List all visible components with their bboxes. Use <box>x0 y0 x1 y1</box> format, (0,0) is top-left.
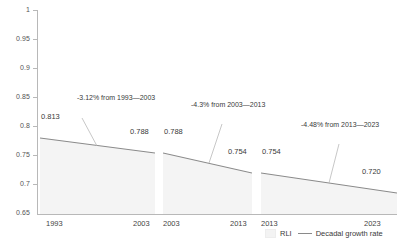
y-tick-mark <box>33 10 37 11</box>
legend-item-rli[interactable]: RLI <box>265 229 292 238</box>
leader-line-3 <box>329 144 339 183</box>
x-tick-label-2023: 2023 <box>364 219 381 228</box>
value-label-end-3: 0.720 <box>362 167 381 176</box>
y-tick-mark <box>33 68 37 69</box>
y-tick-mark <box>33 155 37 156</box>
legend-label-decadal-growth-rate: Decadal growth rate <box>316 229 383 238</box>
line-swatch-icon <box>298 233 312 234</box>
area-swatch-icon <box>265 229 276 238</box>
chart-legend: RLI Decadal growth rate <box>265 229 383 238</box>
leader-line-2 <box>209 124 222 163</box>
leader-line-1 <box>82 118 97 146</box>
panel-2003-2013 <box>163 10 252 214</box>
x-tick-label-2003a: 2003 <box>133 219 150 228</box>
y-tick-label-085: 0.85 <box>0 93 30 100</box>
y-tick-label-09: 0.9 <box>0 64 30 71</box>
area-fill-3 <box>261 173 397 214</box>
legend-label-rli: RLI <box>280 229 292 238</box>
annotation-2: -4.3% from 2003—2013 <box>191 101 265 108</box>
y-tick-label-08: 0.8 <box>0 122 30 129</box>
panel-2013-2023 <box>261 10 397 214</box>
value-label-start-2: 0.788 <box>164 127 183 136</box>
x-axis-line <box>37 214 397 215</box>
area-fill-1 <box>40 138 155 214</box>
legend-item-decadal-growth-rate[interactable]: Decadal growth rate <box>298 229 383 238</box>
chart-container: 1 0.95 0.9 0.85 0.8 0.75 0.7 0.65 0.813 … <box>0 0 399 251</box>
value-label-end-1: 0.788 <box>130 127 149 136</box>
y-tick-label-065: 0.65 <box>0 209 30 216</box>
y-tick-mark <box>33 126 37 127</box>
y-tick-mark <box>33 184 37 185</box>
y-tick-label-07: 0.7 <box>0 180 30 187</box>
y-tick-mark <box>33 39 37 40</box>
x-tick-label-2013a: 2013 <box>230 219 247 228</box>
annotation-1: -3.12% from 1993—2003 <box>77 94 155 101</box>
panel-3-plot <box>261 10 397 214</box>
y-tick-label-1: 1 <box>0 6 30 13</box>
y-tick-label-095: 0.95 <box>0 35 30 42</box>
y-axis-line <box>37 10 38 215</box>
area-fill-2 <box>163 153 252 214</box>
panel-2-plot <box>163 10 252 214</box>
value-label-end-2: 0.754 <box>228 147 247 156</box>
y-tick-label-075: 0.75 <box>0 151 30 158</box>
y-tick-mark <box>33 97 37 98</box>
value-label-start-3: 0.754 <box>262 147 281 156</box>
x-tick-label-1993: 1993 <box>46 219 63 228</box>
x-tick-label-2013b: 2013 <box>261 219 278 228</box>
value-label-start-1: 0.813 <box>41 112 60 121</box>
x-tick-label-2003b: 2003 <box>163 219 180 228</box>
annotation-3: -4.48% from 2013—2023 <box>301 121 379 128</box>
